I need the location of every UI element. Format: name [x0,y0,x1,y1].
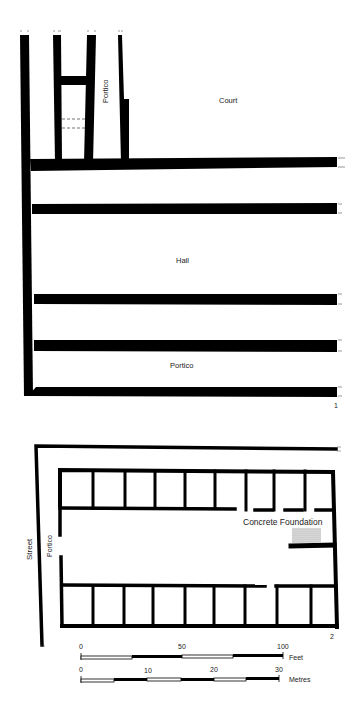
plan-2 [36,446,337,645]
label-portico-top: Portico [101,80,110,103]
label-court: Court [219,96,237,105]
plan1-pier-3 [84,35,96,163]
plan2-north-wall [60,470,333,505]
feet-tick-0: 0 [79,643,83,650]
scale-bar-feet [81,652,283,660]
plan1-wall-b [32,203,337,214]
metres-unit-label: Metres [289,676,310,683]
feet-unit-label: Feet [289,654,303,661]
label-portico-plan2: Portico [46,535,53,557]
plan1-dashed-lines [62,119,85,128]
label-hall: Hall [176,256,189,265]
plan1-wall-e [28,387,337,397]
figure-number-2: 2 [330,633,334,640]
metres-tick-20: 20 [210,666,218,673]
plan1-pier-4 [118,35,129,163]
plan2-east-wall [333,472,337,627]
label-concrete-foundation: Concrete Foundation [243,517,322,527]
plan1-pier-2 [53,35,62,163]
feet-tick-50: 50 [178,643,186,650]
plan1-west-wall [20,35,33,396]
label-portico-bottom: Portico [170,361,193,370]
metres-tick-0: 0 [79,666,83,673]
concrete-foundation-hatch [292,528,321,543]
plan1-wall-c [34,294,337,305]
metres-tick-10: 10 [144,667,152,674]
plan2-foundation-wall [291,545,334,546]
feet-tick-100: 100 [277,643,289,650]
plan1-crossbar [60,76,88,85]
metres-tick-30: 30 [275,666,283,673]
plans-drawing [0,0,359,703]
plan1-wall-a [30,157,337,171]
label-street: Street [25,539,34,560]
figure-number-1: 1 [334,402,338,409]
plan1-wall-d [34,340,337,352]
plan-1 [20,35,337,397]
plan2-north-inner-wall-1 [60,508,235,509]
scale-bar-metres [81,675,279,683]
